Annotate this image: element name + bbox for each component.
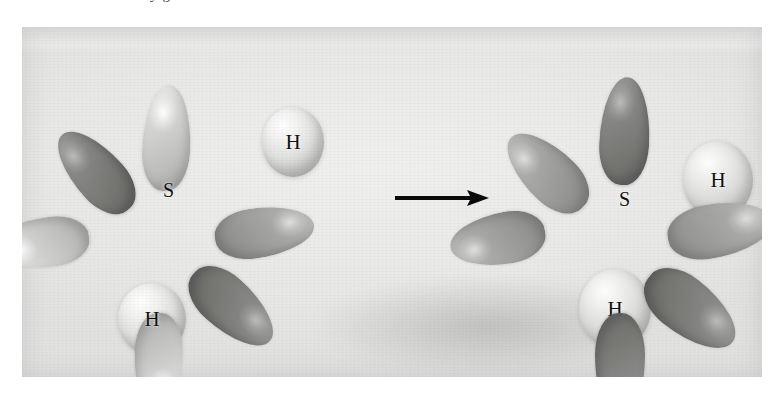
reactant-s-lobe-left [22,212,92,273]
product-s-lobe-right [663,194,762,266]
reactant-hydrogen-upper-sphere: H [262,107,324,177]
reactant-s-lobe-up [140,84,193,192]
product-hydrogen-right-label: H [710,170,725,191]
reactant-s-lobe-right [212,200,318,263]
plate-top-band [22,27,762,53]
reactant-s-lobe-upper-left [44,118,148,226]
product-s-lobe-left [446,205,550,273]
right-arrow-icon [393,187,495,209]
reactant-sulfur-orbital-group: S [62,77,272,292]
product-s-lobe-up [597,76,653,186]
reactant-hydrogen-upper-label: H [285,132,300,153]
clipped-running-text: y g [0,0,778,4]
product-sulfur-label: S [619,189,630,209]
reactant-sulfur-label: S [163,180,174,200]
reactant-s-lobe-lower-right [177,254,288,361]
product-h2s-molecule-group: H H S [517,73,757,353]
reactant-hydrogen-lower-label: H [144,309,159,330]
product-s-lobe-lower-right [632,255,750,364]
product-s-lobe-upper-left [493,119,601,226]
figure-photograph-plate: S H H H H S [22,27,762,377]
